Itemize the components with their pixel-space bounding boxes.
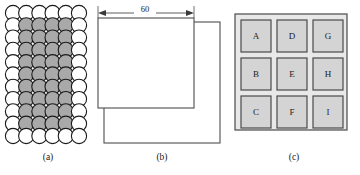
panel-a-svg	[0, 0, 96, 150]
circle-array	[5, 5, 86, 143]
grid-cell-label-g: G	[325, 31, 332, 41]
arrowhead-right-icon	[186, 10, 194, 16]
grid-cell-label-f: F	[289, 107, 294, 117]
grid-cells: ADGBEHCFI	[241, 20, 343, 128]
caption-b: (b)	[96, 152, 228, 162]
grid-cell-label-b: B	[253, 69, 259, 79]
inner-rectangle	[98, 18, 194, 108]
arrowhead-left-icon	[98, 10, 106, 16]
panel-b-rectangles: 60 59	[96, 0, 228, 150]
grid-cell-label-h: H	[325, 69, 332, 79]
grid-cell-label-e: E	[289, 69, 295, 79]
panel-c-lettered-grid: ADGBEHCFI	[228, 0, 360, 150]
figure-container: 60 59 ADGBEHCFI (a) (b) (c)	[0, 0, 360, 175]
grid-cell-label-d: D	[289, 31, 296, 41]
dimension-label-60: 60	[141, 4, 150, 14]
caption-a: (a)	[0, 152, 96, 162]
caption-c: (c)	[228, 152, 360, 162]
grid-cell-label-a: A	[253, 31, 260, 41]
panel-c-svg: ADGBEHCFI	[228, 0, 360, 150]
packed-circle	[71, 128, 86, 143]
grid-cell-label-c: C	[253, 107, 259, 117]
grid-cell-label-i: I	[327, 107, 330, 117]
panel-a-circle-packing	[0, 0, 96, 150]
panel-b-svg: 60 59	[96, 0, 228, 150]
